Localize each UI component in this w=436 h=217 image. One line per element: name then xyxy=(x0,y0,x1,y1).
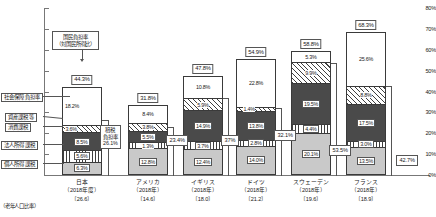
segment-corporate-tax-japan: 5.6% xyxy=(62,150,102,162)
segment-value-corporate-tax-france: 3.0% xyxy=(358,140,374,148)
segment-social-security-sweden: 5.3% xyxy=(291,51,331,62)
segment-individual-tax-japan: 6.3% xyxy=(62,162,102,175)
segment-individual-tax-germany: 14.0% xyxy=(236,146,276,175)
y-axis-tick xyxy=(44,71,49,72)
legend-corporate-income-tax: 法人所得課税 xyxy=(1,141,38,151)
bar-japan: 44.3% 18.2% 3.6% 8.5% 5.6% 6.3% xyxy=(62,87,102,175)
y-axis-tick xyxy=(44,92,49,93)
y-axis-tick xyxy=(44,154,49,155)
bar-sweden: 58.8% 5.3% 9.9% 19.5% 4.4% 20.1% xyxy=(291,51,331,175)
segment-social-security-uk: 10.8% xyxy=(183,76,223,99)
tax-burden-box-france: 42.7% xyxy=(396,155,418,166)
segment-value-consumption-tax-germany: 13.8% xyxy=(247,122,265,130)
total-label-japan: 44.3% xyxy=(71,75,92,85)
legend-social-security-rate: 社会保障負担率 xyxy=(1,93,43,103)
tax-burden-box-japan: 租税 負担率 26.1% xyxy=(100,125,121,149)
segment-value-corporate-tax-germany: 2.8% xyxy=(248,139,264,147)
segment-individual-tax-sweden: 20.1% xyxy=(291,133,331,175)
segment-asset-tax-uk: 5.9% xyxy=(183,98,223,110)
annotation-line-1: 国民負担率 xyxy=(56,34,95,41)
segment-value-social-security-france: 25.6% xyxy=(359,56,373,62)
annotation-line-2: （対国民所得比） xyxy=(56,41,95,48)
total-label-usa: 31.8% xyxy=(137,93,158,103)
leader-line-individual-tax xyxy=(43,163,64,164)
y-axis-label-40: 40% xyxy=(394,89,436,95)
segment-value-social-security-sweden: 5.3% xyxy=(305,54,316,60)
segment-value-consumption-tax-japan: 8.5% xyxy=(74,138,90,146)
footnote-elderly-population-ratio: （老年人口比率） xyxy=(0,203,38,210)
segment-asset-tax-japan: 3.6% xyxy=(62,125,102,133)
segment-value-social-security-uk: 10.8% xyxy=(196,84,210,90)
segment-consumption-tax-usa: 5.5% xyxy=(128,131,168,143)
segment-social-security-france: 25.6% xyxy=(346,32,386,85)
annotation-national-burden-rate: 国民負担率 （対国民所得比） xyxy=(52,31,99,50)
segment-value-corporate-tax-japan: 5.6% xyxy=(74,152,90,160)
tax-burden-box-usa: 23.4% xyxy=(166,135,188,146)
leader-line-asset-tax xyxy=(43,116,63,119)
y-axis-tick xyxy=(44,29,49,30)
tax-burden-box-germany: 32.1% xyxy=(274,130,296,141)
segment-value-individual-tax-sweden: 20.1% xyxy=(302,150,320,158)
segment-social-security-japan: 18.2% xyxy=(62,87,102,125)
segment-value-asset-tax-germany: 1.4% xyxy=(243,106,255,112)
segment-value-social-security-japan: 18.2% xyxy=(65,103,79,109)
segment-value-asset-tax-sweden: 9.9% xyxy=(305,70,317,76)
leader-line-corporate-tax xyxy=(43,144,64,145)
y-axis-label-60: 60% xyxy=(394,47,436,53)
segment-asset-tax-usa: 3.8% xyxy=(128,123,168,131)
segment-value-asset-tax-uk: 5.9% xyxy=(197,102,209,108)
legend-individual-income-tax: 個人所得課税 xyxy=(1,160,38,170)
segment-value-social-security-usa: 8.4% xyxy=(142,111,153,117)
segment-individual-tax-usa: 12.8% xyxy=(128,148,168,175)
y-axis-label-70: 70% xyxy=(394,26,436,32)
segment-value-corporate-tax-uk: 3.7% xyxy=(195,142,211,150)
segment-value-consumption-tax-usa: 5.5% xyxy=(140,133,156,141)
segment-value-corporate-tax-sweden: 4.4% xyxy=(303,125,319,133)
annotation-arrow-head xyxy=(80,59,84,62)
leader-line-consumption-tax xyxy=(43,126,63,127)
tax-burden-brace-france xyxy=(386,86,392,176)
segment-value-asset-tax-japan: 3.6% xyxy=(65,126,77,132)
y-axis-label-50: 50% xyxy=(394,68,436,74)
tax-burden-brace-germany xyxy=(276,108,282,176)
legend-consumption-tax: 消費課税 xyxy=(5,123,31,133)
segment-value-individual-tax-germany: 14.0% xyxy=(247,156,265,164)
total-label-uk: 47.8% xyxy=(192,64,213,74)
country-name-france: フランス xyxy=(323,178,409,186)
segment-value-individual-tax-uk: 12.4% xyxy=(194,158,212,166)
segment-consumption-tax-france: 17.5% xyxy=(346,104,386,141)
segment-value-individual-tax-france: 13.5% xyxy=(357,157,375,165)
segment-value-consumption-tax-sweden: 19.5% xyxy=(302,100,320,108)
segment-social-security-usa: 8.4% xyxy=(128,105,168,123)
segment-value-asset-tax-france: 8.8% xyxy=(360,92,372,98)
bar-france: 68.3% 25.6% 8.8% 17.5% 3.0% 13.5% xyxy=(346,32,386,175)
segment-corporate-tax-sweden: 4.4% xyxy=(291,124,331,133)
segment-corporate-tax-uk: 3.7% xyxy=(183,141,223,149)
legend-asset-tax: 資産課税等 xyxy=(5,113,37,123)
segment-social-security-germany: 22.8% xyxy=(236,59,276,107)
x-axis-label-france: フランス （2018年） 〔18.9〕 xyxy=(323,178,409,203)
y-axis-tick xyxy=(44,112,49,113)
national-burden-rate-chart: 80% 70% 60% 50% 40% 30% 20% 10% 0% 社会保障負… xyxy=(0,0,436,217)
bar-usa: 31.8% 8.4% 3.8% 5.5% 1.3% 12.8% xyxy=(128,105,168,175)
total-label-sweden: 58.8% xyxy=(300,39,321,49)
segment-value-consumption-tax-france: 17.5% xyxy=(357,119,375,127)
tax-burden-box-sweden: 53.5% xyxy=(329,145,351,156)
y-axis-tick xyxy=(44,8,49,9)
bar-uk: 47.8% 10.8% 5.9% 14.9% 3.7% 12.4% xyxy=(183,76,223,175)
segment-asset-tax-sweden: 9.9% xyxy=(291,62,331,83)
total-label-france: 68.3% xyxy=(355,20,376,30)
y-axis-label-20: 20% xyxy=(394,130,436,136)
segment-individual-tax-france: 13.5% xyxy=(346,147,386,175)
segment-value-social-security-germany: 22.8% xyxy=(249,80,263,86)
tax-burden-label-line1: 租税 xyxy=(103,127,118,134)
country-elderly-france: 〔18.9〕 xyxy=(323,195,409,203)
tax-burden-label-line2: 負担率 xyxy=(103,134,118,141)
y-axis-tick xyxy=(44,50,49,51)
y-axis-label-80: 80% xyxy=(394,5,436,11)
segment-individual-tax-uk: 12.4% xyxy=(183,149,223,175)
bar-germany: 54.9% 22.8% 1.4% 13.8% 2.8% 14.0% xyxy=(236,59,276,175)
segment-value-individual-tax-usa: 12.8% xyxy=(139,158,157,166)
segment-consumption-tax-sweden: 19.5% xyxy=(291,83,331,124)
leader-line-social-security xyxy=(43,96,70,97)
